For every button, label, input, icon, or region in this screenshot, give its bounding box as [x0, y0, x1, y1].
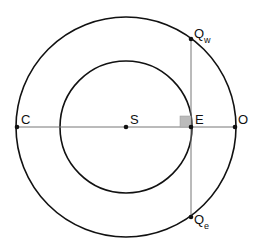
label-qw: Q — [194, 26, 204, 41]
label-c: C — [21, 112, 30, 127]
label-o: O — [238, 112, 248, 127]
point-s — [124, 125, 129, 130]
point-c — [15, 125, 20, 130]
label-e: E — [195, 112, 204, 127]
point-qe — [189, 215, 194, 220]
label-qw-subscript: w — [203, 35, 211, 45]
point-qw — [189, 37, 194, 42]
point-o — [233, 125, 238, 130]
label-qe: Q — [194, 212, 204, 227]
label-qe-subscript: e — [204, 221, 209, 231]
label-s: S — [130, 112, 139, 127]
right-angle-marker — [180, 116, 191, 127]
point-e — [189, 125, 194, 130]
orbit-diagram: C S E O Q w Q e — [0, 0, 262, 247]
